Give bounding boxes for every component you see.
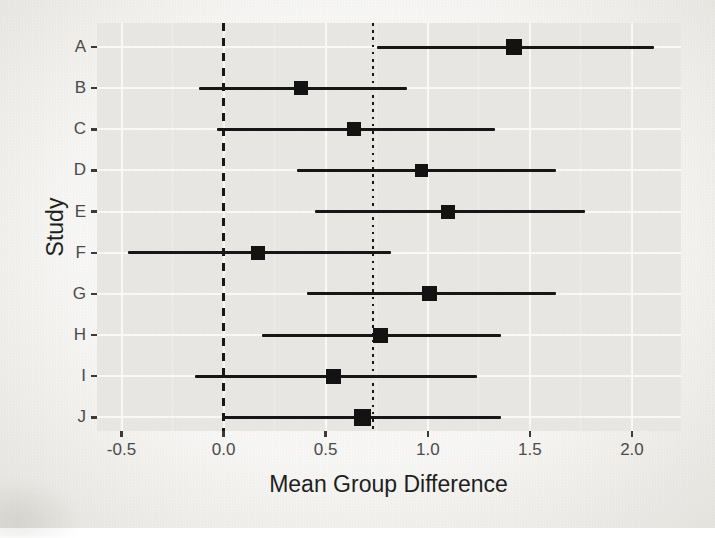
x-tick-label: 0.5 [296,441,356,459]
x-axis-tick [324,431,327,437]
x-axis-tick [631,431,634,437]
y-axis-tick [91,46,97,49]
y-axis-tick [91,252,97,255]
y-axis-tick [91,169,97,172]
point-estimate-study-H [373,328,388,343]
x-tick-label: -0.5 [92,441,152,459]
plot-panel [97,23,681,431]
x-major-gridline [121,23,123,431]
x-tick-label: 0.0 [194,441,254,459]
x-minor-gridline [172,23,173,431]
pooled-estimate-line [372,23,374,431]
point-estimate-study-I [326,369,341,384]
x-major-gridline [529,23,531,431]
y-tick-label-D: D [40,161,86,179]
point-estimate-study-E [441,205,455,219]
point-estimate-study-F [251,246,265,260]
y-axis-tick [91,128,97,131]
x-axis-tick [120,431,123,437]
x-major-gridline [427,23,429,431]
y-axis-tick [91,334,97,337]
y-tick-label-G: G [40,285,86,303]
y-tick-label-J: J [40,408,86,426]
y-axis-title: Study [43,198,67,257]
x-tick-label: 2.0 [602,441,662,459]
x-minor-gridline [580,23,581,431]
y-axis-tick [91,210,97,213]
x-tick-label: 1.5 [500,441,560,459]
x-axis-tick [529,431,532,437]
x-axis-tick [427,431,430,437]
x-minor-gridline [376,23,377,431]
x-minor-gridline [478,23,479,431]
x-minor-gridline [274,23,275,431]
x-axis-title: Mean Group Difference [31,472,715,496]
y-axis-tick [91,375,97,378]
point-estimate-study-D [415,164,428,177]
y-tick-label-B: B [40,79,86,97]
y-axis-tick [91,87,97,90]
y-axis-tick [91,293,97,296]
y-tick-label-C: C [40,120,86,138]
point-estimate-study-A [506,39,522,55]
y-axis-tick [91,416,97,419]
x-tick-label: 1.0 [398,441,458,459]
y-tick-label-H: H [40,326,86,344]
point-estimate-study-G [422,286,437,301]
point-estimate-study-J [354,409,371,426]
x-major-gridline [631,23,633,431]
x-axis-tick [222,431,225,437]
point-estimate-study-B [294,81,308,95]
zero-reference-line [222,23,225,431]
point-estimate-study-C [347,122,361,136]
y-tick-label-A: A [40,38,86,56]
y-tick-label-I: I [40,367,86,385]
